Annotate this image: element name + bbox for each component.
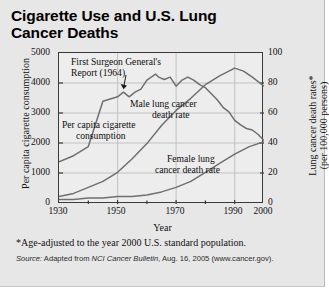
source-text-1: Adapted from xyxy=(42,254,91,263)
y-right-tick-60: 60 xyxy=(268,107,298,117)
x-tick-1970: 1970 xyxy=(155,206,195,216)
y-axis-right-label-line2: (per 100,000 persons) xyxy=(318,46,329,206)
y-right-tick-20: 20 xyxy=(268,167,298,177)
source-line: Source: Adapted from NCI Cancer Bulletin… xyxy=(16,254,274,263)
y-left-tick-3000: 3000 xyxy=(14,107,50,117)
y-left-tick-2000: 2000 xyxy=(14,137,50,147)
annotation-consumption-line2: consumption xyxy=(76,130,126,141)
footnote-age-adjusted: *Age-adjusted to the year 2000 U.S. stan… xyxy=(16,237,246,248)
y-right-tick-80: 80 xyxy=(268,77,298,87)
x-tick-1930: 1930 xyxy=(38,206,78,216)
annotation-surgeon-general-line1: First Surgeon General's xyxy=(71,56,161,67)
annotation-surgeon-general-line2: Report (1964) xyxy=(71,67,125,78)
y-left-tick-4000: 4000 xyxy=(14,77,50,87)
y-axis-left-label: Per capita cigarette consumption xyxy=(20,44,31,204)
source-prefix: Source: xyxy=(16,254,42,263)
annotation-male-line1: Male lung cancer xyxy=(130,98,197,109)
source-publication: NCI Cancer Bulletin xyxy=(92,254,159,263)
annotation-male-line2: death rate xyxy=(152,109,190,120)
x-tick-1950: 1950 xyxy=(96,206,136,216)
y-right-tick-40: 40 xyxy=(268,137,298,147)
y-left-tick-1000: 1000 xyxy=(14,167,50,177)
y-left-tick-5000: 5000 xyxy=(14,47,50,57)
y-right-tick-100: 100 xyxy=(268,47,298,57)
source-text-2: , Aug. 16, 2005 (www.cancer.gov). xyxy=(158,254,273,263)
annotation-consumption-line1: Per capita cigarette xyxy=(62,119,136,130)
x-tick-2000: 2000 xyxy=(243,206,283,216)
figure-panel: Cigarette Use and U.S. Lung Cancer Death… xyxy=(0,0,325,287)
annotation-female-line1: Female lung xyxy=(167,153,215,164)
y-axis-right-label-line1: Lung cancer death rates* xyxy=(307,46,318,206)
page-title: Cigarette Use and U.S. Lung Cancer Death… xyxy=(11,7,261,41)
x-axis-label: Year xyxy=(0,222,325,233)
annotation-female-line2: cancer death rate xyxy=(155,164,220,175)
